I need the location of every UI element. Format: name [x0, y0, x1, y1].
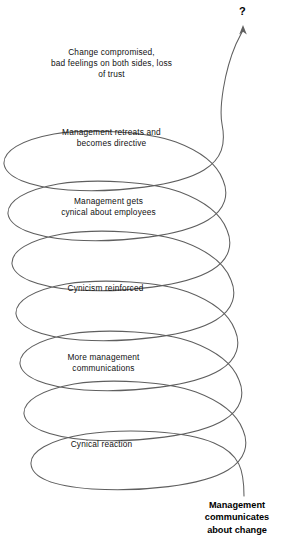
loop-label-2: Management retreats and becomes directiv… — [13, 127, 210, 149]
spiral-coil-path — [4, 30, 246, 496]
loop-label-6: Cynical reaction — [3, 439, 200, 450]
start-label: Management communicates about change — [193, 499, 281, 536]
loop-label-3: Management gets cynical about employees — [10, 196, 207, 218]
loop-label-5: More management communications — [5, 352, 202, 374]
loop-label-4: Cynicism reinforced — [7, 283, 204, 294]
loop-label-1: Change compromised, bad feelings on both… — [13, 47, 210, 81]
question-mark-label: ? — [239, 6, 246, 17]
spiral-diagram-canvas — [0, 0, 283, 546]
arrow-head-icon — [239, 25, 247, 35]
